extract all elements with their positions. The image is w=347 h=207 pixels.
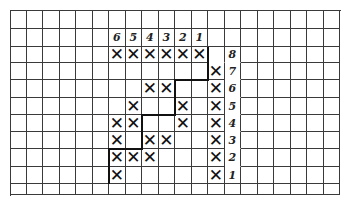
grid-cell	[10, 149, 27, 167]
grid-cell	[159, 98, 176, 115]
grid-cell	[93, 80, 110, 98]
grid-cell	[43, 98, 60, 115]
column-number-label: 1	[195, 31, 203, 44]
grid-cell	[27, 132, 44, 149]
x-mark: ✕	[110, 167, 124, 184]
grid-cell	[324, 167, 341, 184]
grid-cell	[274, 10, 291, 29]
grid-cell	[43, 149, 60, 167]
grid-cell: ✕	[109, 167, 126, 184]
grid-cell	[109, 10, 126, 29]
grid-cell	[109, 80, 126, 98]
grid-cell	[43, 184, 60, 195]
grid-cell	[324, 132, 341, 149]
grid-cell	[27, 115, 44, 132]
grid-cell	[60, 149, 77, 167]
grid-cell	[324, 63, 341, 80]
grid-cell	[93, 167, 110, 184]
grid-cell: ✕	[142, 80, 159, 98]
grid-cell	[10, 47, 27, 63]
grid-cell	[192, 115, 209, 132]
grid-cell	[10, 29, 27, 47]
grid-cell	[60, 132, 77, 149]
grid-cell	[175, 10, 192, 29]
grid-cell	[175, 149, 192, 167]
grid-cell	[274, 98, 291, 115]
grid-cell	[60, 98, 77, 115]
grid-cell	[291, 63, 308, 80]
grid-cell	[126, 184, 143, 195]
grid-cell: ✕	[142, 47, 159, 63]
row-number-label: 7	[228, 65, 236, 78]
x-mark: ✕	[143, 149, 157, 166]
grid-cell	[307, 149, 324, 167]
grid-cell	[142, 167, 159, 184]
grid-cell	[307, 10, 324, 29]
grid-cell	[142, 10, 159, 29]
grid-cell	[258, 98, 275, 115]
grid-cell	[142, 184, 159, 195]
grid-cell	[241, 29, 258, 47]
grid-cell	[258, 80, 275, 98]
x-mark: ✕	[126, 149, 140, 166]
grid-cell	[307, 132, 324, 149]
grid-cell	[274, 29, 291, 47]
row-number-label: 8	[228, 48, 236, 61]
grid-cell	[258, 29, 275, 47]
grid-cell	[241, 47, 258, 63]
grid-cell	[93, 63, 110, 80]
grid-cell	[241, 115, 258, 132]
grid-cell: ✕	[159, 80, 176, 98]
grid-cell	[93, 132, 110, 149]
grid-cell	[109, 63, 126, 80]
grid-cell	[307, 98, 324, 115]
grid-cell	[241, 167, 258, 184]
grid-cell	[274, 184, 291, 195]
grid: 654321✕✕✕✕✕✕8✕7✕✕✕6✕✕✕5✕✕✕✕4✕✕✕✕3✕✕✕✕2✕✕…	[10, 10, 340, 195]
grid-cell	[258, 167, 275, 184]
column-number-label: 6	[113, 31, 121, 44]
row-number-label: 2	[228, 151, 236, 164]
x-mark: ✕	[126, 46, 140, 63]
grid-cell	[324, 184, 341, 195]
grid-cell	[93, 29, 110, 47]
grid-cell	[291, 98, 308, 115]
grid-cell	[43, 29, 60, 47]
grid-cell: 4	[225, 115, 242, 132]
grid-cell	[60, 47, 77, 63]
grid-cell	[241, 63, 258, 80]
grid-cell	[324, 98, 341, 115]
grid-cell: 3	[225, 132, 242, 149]
grid-cell	[126, 63, 143, 80]
x-mark: ✕	[126, 115, 140, 132]
x-mark: ✕	[209, 149, 223, 166]
grid-cell	[175, 167, 192, 184]
grid-cell	[241, 80, 258, 98]
grid-cell: ✕	[175, 115, 192, 132]
grid-cell	[192, 98, 209, 115]
x-mark: ✕	[159, 46, 173, 63]
grid-cell	[76, 184, 93, 195]
grid-cell	[76, 63, 93, 80]
grid-cell	[93, 149, 110, 167]
grid-cell	[324, 47, 341, 63]
grid-cell	[27, 184, 44, 195]
grid-cell	[93, 47, 110, 63]
grid-cell	[93, 184, 110, 195]
grid-cell	[192, 132, 209, 149]
grid-cell	[93, 115, 110, 132]
grid-cell	[76, 29, 93, 47]
grid-cell	[159, 184, 176, 195]
grid-cell	[76, 167, 93, 184]
grid-cell	[10, 115, 27, 132]
grid-cell	[258, 184, 275, 195]
grid-cell	[192, 63, 209, 80]
grid-cell	[10, 63, 27, 80]
grid-cell	[27, 98, 44, 115]
grid-cell	[291, 167, 308, 184]
x-mark: ✕	[110, 149, 124, 166]
grid-cell	[76, 98, 93, 115]
grid-cell	[27, 29, 44, 47]
row-number-label: 3	[228, 134, 236, 147]
grid-cell	[109, 184, 126, 195]
